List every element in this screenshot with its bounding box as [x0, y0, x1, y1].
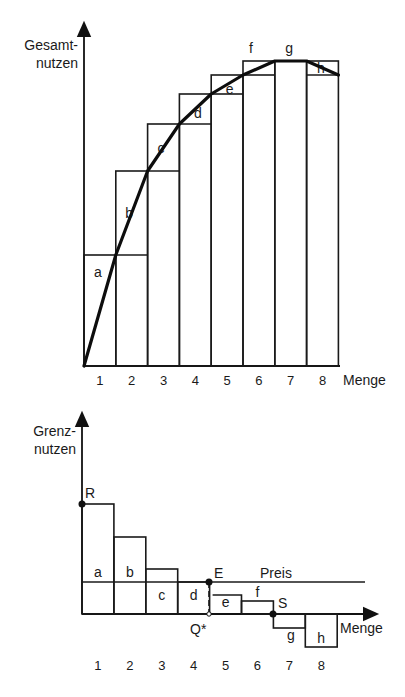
utility-diagram: Gesamt- nutzen abcdefgh 12345678 Menge G…	[0, 0, 405, 697]
point-S-label: S	[278, 595, 287, 611]
point-S	[270, 611, 277, 618]
point-E	[206, 579, 213, 586]
total-utility-segment-labels: abcdefgh	[94, 40, 325, 280]
price-label: Preis	[260, 565, 292, 581]
x-tick-label: 8	[318, 658, 325, 673]
segment-label: g	[287, 627, 295, 643]
point-Q	[207, 612, 211, 616]
total-utility-bars	[84, 61, 338, 366]
x-axis-label: Menge	[343, 372, 386, 388]
segment-label: a	[94, 564, 102, 580]
y-axis-label-line1: Gesamt-	[24, 37, 78, 53]
x-tick-label: 6	[254, 658, 261, 673]
x-tick-label: 7	[286, 658, 293, 673]
marginal-utility-bar	[82, 504, 114, 614]
x-tick-label: 5	[223, 373, 230, 388]
x-tick-label: 8	[319, 373, 326, 388]
x-tick-label: 1	[94, 658, 101, 673]
total-utility-column	[116, 171, 148, 366]
total-utility-column	[243, 61, 275, 366]
y-axis-label-line2: nutzen	[34, 441, 76, 457]
x-tick-label: 4	[190, 658, 197, 673]
point-Q-label: Q*	[190, 621, 207, 637]
segment-label: d	[190, 587, 198, 603]
segment-label: c	[158, 587, 165, 603]
marginal-utility-bar	[242, 601, 274, 614]
segment-label: g	[285, 40, 293, 56]
x-axis-ticks: 12345678	[94, 658, 325, 673]
segment-label: h	[317, 630, 325, 646]
marginal-utility-bar	[273, 614, 305, 628]
segment-label: f	[256, 584, 260, 600]
total-utility-column	[211, 75, 243, 366]
marginal-utility-chart: Grenz- nutzen abcdefgh Preis R E Q* S Me…	[33, 418, 383, 673]
segment-label: b	[126, 564, 134, 580]
total-utility-column	[148, 124, 180, 366]
x-tick-label: 3	[158, 658, 165, 673]
x-tick-label: 1	[96, 373, 103, 388]
y-axis-label-line1: Grenz-	[33, 423, 76, 439]
x-tick-label: 5	[222, 658, 229, 673]
x-axis-ticks: 12345678	[96, 373, 326, 388]
point-R-label: R	[85, 485, 95, 501]
segment-label: e	[222, 594, 230, 610]
x-tick-label: 2	[128, 373, 135, 388]
y-axis-label-line2: nutzen	[36, 55, 78, 71]
segment-label: f	[249, 40, 253, 56]
total-utility-column	[179, 94, 211, 366]
point-E-label: E	[214, 565, 223, 581]
segment-label: a	[94, 264, 102, 280]
x-tick-label: 2	[126, 658, 133, 673]
x-tick-label: 4	[192, 373, 199, 388]
x-tick-label: 3	[160, 373, 167, 388]
point-R	[79, 501, 86, 508]
x-tick-label: 6	[255, 373, 262, 388]
total-utility-chart: Gesamt- nutzen abcdefgh 12345678 Menge	[24, 28, 386, 388]
total-utility-column	[275, 61, 307, 366]
x-tick-label: 7	[287, 373, 294, 388]
total-utility-column	[307, 61, 339, 366]
marginal-utility-bars	[82, 504, 337, 647]
x-axis-label: Menge	[340, 620, 383, 636]
